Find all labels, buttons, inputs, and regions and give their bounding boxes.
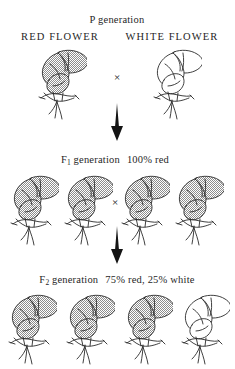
f2-heading-word: generation [52,274,98,285]
arrow-p-to-f1 [109,103,126,147]
flower-f2-1 [3,291,57,369]
flower-f1-4 [170,172,224,252]
flower-f2-2 [61,291,115,369]
red-flower-label: RED FLOWER [21,32,99,43]
cross-symbol-p: × [114,72,120,83]
f1-heading-subscript: 1 [67,158,71,167]
flower-f1-2 [59,172,113,252]
flower-p-white [148,46,202,126]
f1-heading-word: generation [74,154,120,165]
f2-generation-heading: F2 generation75% red, 25% white [39,275,194,286]
white-flower-label: WHITE FLOWER [126,32,219,43]
arrow-f1-to-f2 [109,226,126,270]
flower-p-red: use .line { fill: none; } [33,46,87,126]
flower-petals-shaded [39,50,87,119]
flower-f2-3 [119,291,173,369]
f1-generation-heading: F1 generation100% red [61,155,169,166]
p-generation-heading: P generation [90,15,145,26]
flower-f1-1 [5,172,59,252]
flower-petals-outline [154,50,202,119]
flower-f2-4 [176,291,230,369]
f1-ratio: 100% red [127,154,169,165]
f2-heading-subscript: 2 [45,278,49,287]
f2-ratio: 75% red, 25% white [105,274,194,285]
